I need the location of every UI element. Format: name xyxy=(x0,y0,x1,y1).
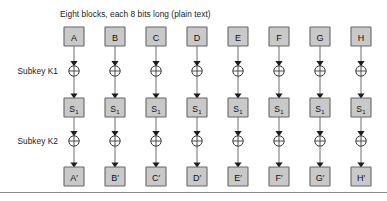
input-block-label-a: A xyxy=(71,33,77,43)
output-block-label-b: B′ xyxy=(111,173,119,183)
row-label-subkey-k1: Subkey K1 xyxy=(17,66,58,76)
pipeline-column-a: AS1A′ xyxy=(64,27,84,186)
xor-gate-k1-f xyxy=(274,66,284,76)
input-block-label-b: B xyxy=(112,33,118,43)
output-block-label-e: E′ xyxy=(234,173,242,183)
input-block-label-d: D xyxy=(194,33,201,43)
row-label-subkey-k2: Subkey K2 xyxy=(17,136,58,146)
pipeline-column-d: DS1D′ xyxy=(187,27,207,186)
pipeline-column-e: ES1E′ xyxy=(228,27,248,186)
output-block-label-h: H′ xyxy=(357,173,365,183)
xor-gate-k2-d xyxy=(192,136,202,146)
pipeline-column-h: HS1H′ xyxy=(351,27,371,186)
xor-gate-k1-g xyxy=(315,66,325,76)
xor-gate-k1-d xyxy=(192,66,202,76)
output-block-label-g: G′ xyxy=(316,173,325,183)
xor-gate-k2-a xyxy=(69,136,79,146)
output-block-label-d: D′ xyxy=(193,173,201,183)
xor-gate-k2-h xyxy=(356,136,366,146)
pipeline-column-b: BS1B′ xyxy=(105,27,125,186)
xor-gate-k2-f xyxy=(274,136,284,146)
xor-gate-k2-b xyxy=(110,136,120,146)
input-block-label-f: F xyxy=(276,33,282,43)
pipeline-column-f: FS1F′ xyxy=(269,27,289,186)
output-block-label-a: A′ xyxy=(70,173,78,183)
xor-gate-k2-e xyxy=(233,136,243,146)
pipeline-column-g: GS1G′ xyxy=(310,27,330,186)
output-block-label-f: F′ xyxy=(275,173,282,183)
diagram-title: Eight blocks, each 8 bits long (plain te… xyxy=(60,9,211,19)
cipher-block-diagram: Eight blocks, each 8 bits long (plain te… xyxy=(0,0,387,201)
xor-gate-k1-e xyxy=(233,66,243,76)
output-block-label-c: C′ xyxy=(152,173,160,183)
xor-gate-k2-c xyxy=(151,136,161,146)
input-block-label-g: G xyxy=(316,33,323,43)
pipeline-columns: AS1A′BS1B′CS1C′DS1D′ES1E′FS1F′GS1G′HS1H′ xyxy=(64,27,371,186)
input-block-label-h: H xyxy=(358,33,365,43)
diagram-canvas: Eight blocks, each 8 bits long (plain te… xyxy=(0,0,387,201)
input-block-label-e: E xyxy=(235,33,241,43)
xor-gate-k1-c xyxy=(151,66,161,76)
xor-gate-k1-b xyxy=(110,66,120,76)
xor-gate-k1-a xyxy=(69,66,79,76)
pipeline-column-c: CS1C′ xyxy=(146,27,166,186)
xor-gate-k1-h xyxy=(356,66,366,76)
input-block-label-c: C xyxy=(153,33,160,43)
xor-gate-k2-g xyxy=(315,136,325,146)
